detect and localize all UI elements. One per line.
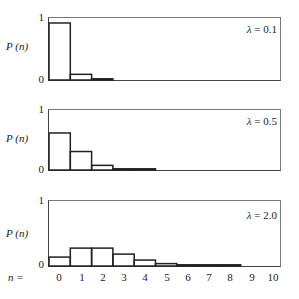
histogram-bar bbox=[92, 248, 113, 266]
x-tick: 10 bbox=[265, 271, 281, 283]
x-tick: 9 bbox=[244, 271, 260, 283]
histogram-bar bbox=[156, 264, 177, 266]
histogram-bar bbox=[219, 265, 240, 266]
x-tick: 2 bbox=[95, 271, 111, 283]
histogram-bar bbox=[177, 265, 198, 266]
x-axis: n = 0 1 2 3 4 5 6 7 8 9 10 bbox=[0, 271, 299, 287]
x-tick: 0 bbox=[51, 271, 67, 283]
histogram-bar bbox=[134, 260, 155, 266]
x-tick: 3 bbox=[116, 271, 132, 283]
histogram-bar bbox=[70, 248, 91, 266]
histogram-bar bbox=[113, 254, 134, 266]
histogram-bars bbox=[0, 0, 299, 299]
x-tick: 5 bbox=[159, 271, 175, 283]
histogram-bar bbox=[49, 257, 70, 266]
x-tick: 6 bbox=[180, 271, 196, 283]
panel-lambda-2-0: 1 0 P (n) λ = 2.0 bbox=[0, 0, 299, 299]
x-tick: 1 bbox=[74, 271, 90, 283]
histogram-bar bbox=[198, 265, 219, 266]
x-axis-label: n = bbox=[8, 271, 24, 283]
x-tick: 4 bbox=[137, 271, 153, 283]
x-tick: 8 bbox=[222, 271, 238, 283]
x-tick: 7 bbox=[201, 271, 217, 283]
